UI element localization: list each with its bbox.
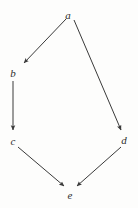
graph-edge-a-b [24,19,66,63]
graph-node-c: c [11,136,16,147]
graph-node-b: b [10,68,16,79]
graph-edge-a-d [74,20,121,130]
graph-edge-d-e [77,147,121,186]
graph-node-e: e [68,190,73,201]
edge-group [13,19,121,186]
graph-edge-c-e [18,147,64,186]
graph-node-d: d [121,135,127,146]
graph-diagram: abcde [0,0,138,208]
graph-edges-canvas [0,0,138,208]
graph-node-a: a [65,10,71,21]
